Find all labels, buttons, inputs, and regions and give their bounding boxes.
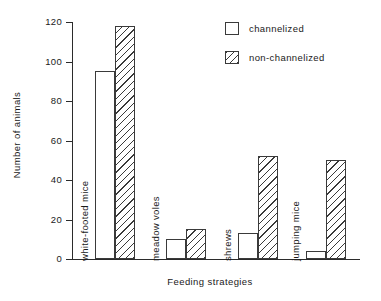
group-label-white-footed-mice: white-footed mice [80,181,90,261]
bar-white-footed-mice-non-channelized [115,26,135,259]
y-axis-title: Number of animals [12,70,22,200]
y-tick-60 [66,141,72,142]
x-axis-title: Feeding strategies [130,277,290,287]
y-tick-label: 80 [34,96,62,106]
bar-meadow-voles-channelized [166,239,186,259]
bar-chart: Number of animals 020406080100120 white-… [0,0,381,301]
y-tick-label: 60 [34,136,62,146]
legend-label-channelized: channelized [249,24,304,34]
y-tick-20 [66,220,72,221]
bar-shrews-non-channelized [258,156,278,259]
y-tick-label: 120 [34,17,62,27]
group-label-jumping-mice: jumping mice [291,201,301,261]
y-tick-80 [66,101,72,102]
y-tick-40 [66,180,72,181]
y-tick-label: 0 [34,254,62,264]
bar-jumping-mice-non-channelized [326,160,346,259]
y-axis-line [72,22,73,260]
y-tick-120 [66,22,72,23]
group-label-shrews: shrews [223,229,233,261]
y-tick-label: 40 [34,175,62,185]
bar-meadow-voles-non-channelized [186,229,206,259]
y-tick-label: 100 [34,57,62,67]
y-tick-label: 20 [34,215,62,225]
bar-jumping-mice-channelized [306,251,326,259]
bar-shrews-channelized [238,233,258,259]
legend-label-non-channelized: non-channelized [249,53,325,63]
legend-swatch-channelized [225,22,239,35]
group-label-meadow-voles: meadow voles [151,196,161,261]
y-tick-100 [66,62,72,63]
x-axis-line [72,259,360,260]
bar-white-footed-mice-channelized [95,71,115,259]
legend-swatch-non-channelized [225,51,239,64]
